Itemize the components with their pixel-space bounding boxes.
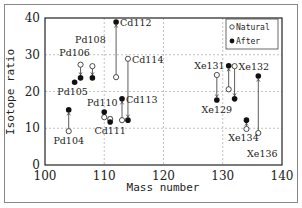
y-tick-label: 30 [25,48,40,62]
after-marker [78,75,84,81]
y-tick-label: 40 [25,11,40,25]
after-marker [125,117,131,123]
legend-after-label: After [236,37,260,46]
legend-after-marker [230,39,235,44]
natural-marker [90,64,95,69]
isotope-ratio-chart: Pd104Pd105Pd106Pd108Pd110Cd111Cd112Cd113… [0,0,302,208]
point-label: Pd105 [57,86,88,97]
point-label: Cd112 [120,17,151,28]
point-label: Cd111 [94,125,125,136]
after-marker [244,117,250,123]
point-label: Pd108 [75,34,106,45]
y-ticks: 010203040 [25,11,40,172]
natural-marker [214,72,219,77]
point-label: Cd113 [126,94,157,105]
point-label: Xe134 [228,132,259,143]
point-label: Pd106 [59,47,90,58]
natural-marker [232,64,237,69]
legend: Natural After [226,19,278,49]
x-axis-label: Mass number [127,181,200,194]
y-tick-label: 20 [25,85,40,99]
after-marker [101,109,107,115]
after-marker [90,75,96,81]
point-label: Cd114 [132,54,163,65]
natural-marker [102,115,107,120]
legend-natural-label: Natural [236,23,270,32]
after-marker [226,63,232,69]
natural-marker [125,56,130,61]
y-tick-label: 0 [32,158,40,172]
after-marker [113,19,119,25]
point-label: Xe132 [239,61,270,72]
natural-marker [226,87,231,92]
point-label: Pd110 [87,97,118,108]
y-axis-label: Isotope ratio [4,49,17,135]
point-label: Pd104 [53,135,84,146]
point-label: Xe129 [202,104,233,115]
x-tick-label: 140 [271,169,294,183]
after-marker [255,73,261,79]
point-label: Xe131 [194,60,225,71]
natural-marker [66,129,71,134]
after-marker [72,80,78,86]
after-marker [107,119,113,125]
x-tick-label: 110 [93,169,116,183]
natural-marker [78,62,83,67]
x-tick-label: 130 [211,169,234,183]
legend-natural-marker [230,25,234,29]
after-marker [66,107,72,113]
after-marker [214,97,220,103]
natural-marker [244,126,249,131]
natural-marker [114,75,119,80]
y-tick-label: 10 [25,121,40,135]
natural-marker [119,118,124,123]
after-marker [119,96,125,102]
point-label: Xe136 [247,148,278,159]
after-marker [232,96,238,102]
